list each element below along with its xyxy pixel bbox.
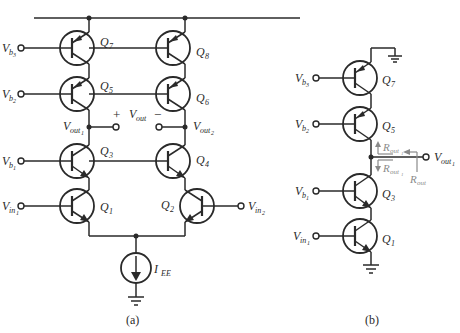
rout-down-annotation: R out 1	[375, 160, 404, 177]
svg-text:2: 2	[306, 128, 309, 134]
transistor-q1-b	[316, 219, 377, 253]
caption-a: (a)	[126, 313, 139, 327]
transistor-q7	[20, 31, 94, 65]
transistor-q1	[20, 189, 94, 223]
vin1-terminal-b[interactable]	[313, 233, 319, 239]
rout-up-annotation: R out 1	[375, 141, 404, 156]
svg-text:out: out	[390, 147, 400, 155]
transistor-q5	[20, 77, 94, 111]
figure-a: I EE	[2, 16, 300, 328]
svg-text:3: 3	[390, 194, 395, 203]
vin2-terminal[interactable]	[238, 203, 244, 209]
svg-text:1: 1	[16, 210, 19, 216]
svg-text:in: in	[300, 236, 306, 245]
svg-text:out: out	[390, 168, 400, 176]
q1-label-b: Q	[382, 232, 391, 246]
svg-text:out: out	[136, 114, 147, 123]
q3-label: Q	[100, 144, 109, 158]
q8-label: Q	[196, 45, 205, 59]
svg-text:EE: EE	[160, 269, 171, 278]
vb1-terminal-b[interactable]	[313, 188, 319, 194]
q1-label: Q	[100, 200, 109, 214]
transistor-q7-b	[316, 61, 377, 95]
vb2-terminal[interactable]	[18, 91, 24, 97]
svg-text:5: 5	[109, 86, 113, 95]
svg-text:1: 1	[306, 195, 309, 201]
svg-text:R: R	[382, 162, 390, 174]
ground-icon-top	[388, 56, 402, 62]
transistor-q2	[180, 189, 240, 223]
svg-text:8: 8	[205, 52, 209, 61]
q7-label: Q	[100, 35, 109, 49]
vb3-terminal-b[interactable]	[313, 75, 319, 81]
svg-text:7: 7	[391, 80, 396, 89]
vb3-terminal[interactable]	[18, 45, 24, 51]
svg-text:6: 6	[205, 98, 209, 107]
svg-text:4: 4	[205, 160, 209, 169]
ground-icon-bottom	[363, 265, 379, 273]
iee-label: I	[153, 262, 159, 276]
svg-text:in: in	[9, 206, 15, 215]
vout-minus-terminal[interactable]	[156, 124, 162, 130]
svg-text:out: out	[441, 157, 452, 166]
transistor-q3	[20, 144, 94, 178]
svg-text:2: 2	[170, 205, 174, 214]
q5-label-b: Q	[382, 119, 391, 133]
q3-label-b: Q	[382, 187, 391, 201]
q6-label: Q	[196, 91, 205, 105]
svg-text:3: 3	[108, 151, 113, 160]
svg-text:R: R	[382, 141, 390, 153]
svg-text:R: R	[409, 173, 417, 185]
transistor-q3-b	[316, 174, 377, 208]
svg-text:1: 1	[391, 239, 395, 248]
svg-text:1: 1	[13, 165, 16, 171]
svg-text:in: in	[255, 206, 261, 215]
ground-icon	[128, 297, 144, 305]
svg-text:1: 1	[401, 172, 404, 177]
vout-plus-terminal[interactable]	[113, 124, 119, 130]
minus-sign: −	[154, 107, 161, 122]
svg-text:7: 7	[109, 42, 114, 51]
svg-text:1: 1	[452, 161, 455, 167]
current-source-iee: I EE	[121, 253, 171, 283]
svg-text:3: 3	[305, 82, 309, 88]
vb2-terminal-b[interactable]	[313, 121, 319, 127]
svg-text:2: 2	[211, 130, 214, 136]
svg-text:1: 1	[401, 151, 404, 156]
svg-text:out: out	[70, 126, 81, 135]
q4-label: Q	[196, 153, 205, 167]
vb1-terminal[interactable]	[18, 158, 24, 164]
svg-text:out: out	[200, 126, 211, 135]
figure-b: V b 3 V b 2 V b 1 V in 1 Q 7 Q 5 Q 3 Q 1…	[293, 48, 455, 327]
svg-text:1: 1	[109, 207, 113, 216]
q7-label-b: Q	[382, 73, 391, 87]
q2-label: Q	[161, 198, 170, 212]
svg-text:3: 3	[12, 52, 16, 58]
vin1-terminal[interactable]	[18, 203, 24, 209]
svg-text:1: 1	[81, 130, 84, 136]
svg-text:out: out	[417, 179, 427, 187]
svg-text:1: 1	[307, 240, 310, 246]
vout1-terminal-b[interactable]	[423, 154, 429, 160]
svg-text:5: 5	[391, 126, 395, 135]
transistor-q5-b	[316, 107, 377, 141]
svg-text:2: 2	[262, 210, 265, 216]
svg-text:2: 2	[13, 98, 16, 104]
caption-b: (b)	[365, 313, 379, 327]
q5-label: Q	[100, 79, 109, 93]
circuit-figure: I EE	[0, 0, 460, 333]
plus-sign: +	[113, 107, 120, 122]
